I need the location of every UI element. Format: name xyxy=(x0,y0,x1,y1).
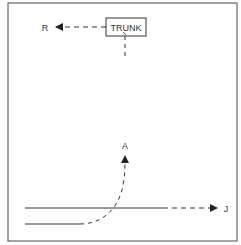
label-j: J xyxy=(224,204,229,214)
diagram-canvas: TRUNK R J A xyxy=(0,0,241,245)
arrow-to-a xyxy=(80,156,125,224)
trunk-label: TRUNK xyxy=(111,23,142,33)
label-a: A xyxy=(122,141,128,151)
diagram-frame xyxy=(8,3,237,241)
label-r: R xyxy=(42,23,49,33)
trunk-node: TRUNK xyxy=(106,18,146,36)
